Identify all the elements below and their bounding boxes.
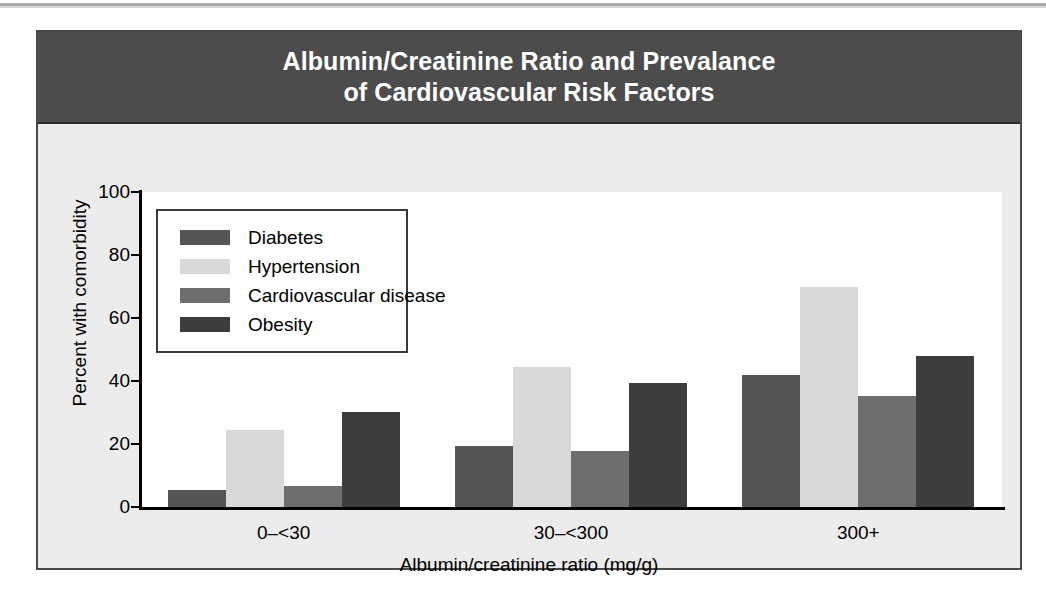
chart-legend: DiabetesHypertensionCardiovascular disea…	[156, 209, 408, 353]
y-axis-tick	[131, 254, 140, 256]
figure-title-line-1: Albumin/Creatinine Ratio and Prevalance	[283, 46, 776, 77]
bar	[284, 486, 342, 507]
legend-item-label: Hypertension	[248, 256, 360, 278]
bar	[571, 451, 629, 507]
legend-item: Cardiovascular disease	[158, 281, 406, 310]
figure-title-line-2: of Cardiovascular Risk Factors	[283, 77, 776, 108]
y-axis-tick	[131, 443, 140, 445]
bar	[629, 383, 687, 507]
legend-swatch-icon	[180, 259, 230, 274]
bar	[513, 367, 571, 507]
bar	[916, 356, 974, 507]
bar	[858, 396, 916, 508]
x-axis-category-label: 0–<30	[194, 522, 374, 544]
legend-item: Obesity	[158, 310, 406, 339]
figure-title: Albumin/Creatinine Ratio and Prevalance …	[283, 46, 776, 108]
bar	[800, 287, 858, 508]
legend-swatch-icon	[180, 288, 230, 303]
chart-region: 020406080100 Percent with comorbidity 0–…	[38, 124, 1020, 568]
legend-item-label: Diabetes	[248, 227, 323, 249]
legend-item-label: Obesity	[248, 314, 312, 336]
x-axis-title: Albumin/creatinine ratio (mg/g)	[38, 554, 1020, 576]
legend-item: Hypertension	[158, 252, 406, 281]
bar	[226, 430, 284, 507]
bar	[455, 446, 513, 507]
y-axis-tick	[131, 380, 140, 382]
y-axis-tick	[131, 506, 140, 508]
y-axis-tick-label: 0	[70, 496, 130, 518]
figure-title-band: Albumin/Creatinine Ratio and Prevalance …	[38, 32, 1020, 124]
x-axis-category-label: 300+	[768, 522, 948, 544]
y-axis-tick	[131, 317, 140, 319]
bar	[742, 375, 800, 507]
y-axis-title: Percent with comorbidity	[69, 143, 91, 463]
x-axis-line	[139, 507, 1005, 510]
bar	[168, 490, 226, 507]
bar	[342, 412, 400, 507]
legend-swatch-icon	[180, 230, 230, 245]
x-axis-category-label: 30–<300	[481, 522, 661, 544]
legend-item: Diabetes	[158, 223, 406, 252]
figure-container: Albumin/Creatinine Ratio and Prevalance …	[36, 30, 1022, 570]
legend-item-label: Cardiovascular disease	[248, 285, 446, 307]
y-axis-tick	[131, 191, 140, 193]
legend-swatch-icon	[180, 317, 230, 332]
page-top-rule-secondary	[0, 6, 1046, 8]
